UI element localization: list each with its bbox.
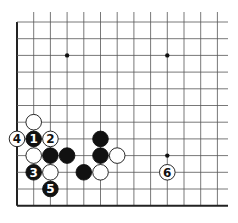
move-number: 4: [13, 132, 21, 146]
black-stone: [93, 131, 109, 147]
move-number: 1: [30, 132, 38, 146]
black-stone-move-1: 1: [26, 131, 42, 147]
black-stone: [59, 148, 75, 164]
white-stone: [26, 148, 42, 164]
stone-disc: [76, 165, 92, 181]
go-board: 412365: [0, 0, 238, 223]
white-stone: [109, 148, 125, 164]
stone-disc: [43, 165, 59, 181]
star-point: [65, 53, 69, 57]
black-stone: [76, 165, 92, 181]
move-number: 5: [46, 182, 54, 196]
white-stone: [43, 165, 59, 181]
white-stone-move-2: 2: [43, 131, 59, 147]
stone-disc: [26, 114, 42, 130]
black-stone: [93, 148, 109, 164]
black-stone-move-3: 3: [26, 165, 42, 181]
star-point: [165, 153, 169, 157]
star-point: [165, 53, 169, 57]
move-number: 3: [30, 166, 38, 180]
stone-disc: [93, 148, 109, 164]
move-number: 2: [46, 132, 54, 146]
stone-disc: [26, 148, 42, 164]
black-stone: [43, 148, 59, 164]
stone-disc: [109, 148, 125, 164]
stone-disc: [93, 131, 109, 147]
white-stone-move-4: 4: [9, 131, 25, 147]
stone-disc: [59, 148, 75, 164]
black-stone-move-5: 5: [43, 181, 59, 197]
move-number: 6: [163, 166, 171, 180]
white-stone-move-6: 6: [160, 165, 176, 181]
stone-disc: [93, 165, 109, 181]
white-stone: [26, 114, 42, 130]
white-stone: [93, 165, 109, 181]
stone-disc: [43, 148, 59, 164]
